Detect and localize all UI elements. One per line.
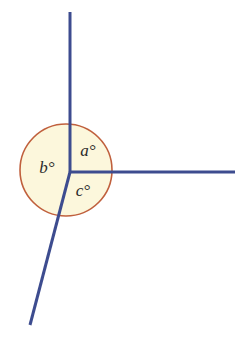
angle-region-circle: [20, 124, 112, 216]
angle-label-c: c°: [76, 181, 91, 200]
geometry-canvas: a° b° c°: [0, 0, 244, 340]
angle-label-b: b°: [39, 158, 55, 177]
angle-diagram: a° b° c°: [0, 0, 244, 340]
angle-label-a: a°: [80, 141, 96, 160]
